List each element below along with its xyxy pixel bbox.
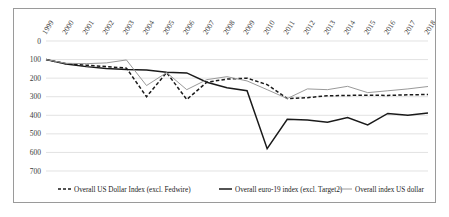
x-tick-label: 2009 xyxy=(241,18,257,36)
x-tick-label: 2017 xyxy=(402,18,418,36)
x-tick-label: 2018 xyxy=(422,18,435,36)
legend-label-0: Overall US Dollar Index (excl. Fedwire) xyxy=(74,186,191,194)
y-tick-label: 100 xyxy=(30,55,42,64)
legend-label-1: Overall euro-19 index (excl. Target2) xyxy=(235,186,343,194)
x-tick-label: 2002 xyxy=(100,18,116,36)
gridlines xyxy=(46,41,428,171)
series-line-0 xyxy=(46,60,428,100)
x-tick-label: 2016 xyxy=(382,18,398,36)
x-tick-label: 2011 xyxy=(281,19,297,36)
x-tick-label: 1999 xyxy=(40,18,56,36)
y-tick-label: 700 xyxy=(30,167,42,176)
x-tick-label: 2007 xyxy=(201,18,217,36)
y-tick-label: 200 xyxy=(30,74,42,83)
chart-legend: Overall US Dollar Index (excl. Fedwire)O… xyxy=(58,186,424,194)
series-lines xyxy=(46,60,428,149)
series-line-1 xyxy=(46,60,428,149)
x-tick-label: 2005 xyxy=(161,18,177,36)
x-tick-label: 2003 xyxy=(120,18,136,36)
legend-label-2: Overall index US dollar xyxy=(355,186,424,194)
y-tick-label: 600 xyxy=(30,148,42,157)
series-line-2 xyxy=(46,60,428,99)
x-tick-label: 2008 xyxy=(221,18,237,36)
y-tick-label: 400 xyxy=(30,111,42,120)
x-tick-label: 2004 xyxy=(141,18,157,36)
x-axis-tick-labels: 1999200020012002200320042005200620072008… xyxy=(40,18,435,36)
y-tick-label: 0 xyxy=(37,37,41,46)
x-tick-label: 2010 xyxy=(261,18,277,36)
x-tick-label: 2000 xyxy=(60,18,76,36)
x-tick-label: 2015 xyxy=(362,18,378,36)
y-tick-label: 500 xyxy=(30,129,42,138)
y-axis-tick-labels: 0100200300400500600700 xyxy=(30,37,42,176)
x-tick-label: 2013 xyxy=(322,18,338,36)
x-tick-label: 2006 xyxy=(181,18,197,36)
y-tick-label: 300 xyxy=(30,92,42,101)
chart-frame: 0100200300400500600700 19992000200120022… xyxy=(13,8,436,203)
x-tick-label: 2012 xyxy=(301,18,317,36)
x-tick-label: 2014 xyxy=(342,18,358,36)
line-chart: 0100200300400500600700 19992000200120022… xyxy=(14,9,435,202)
x-tick-label: 2001 xyxy=(80,18,96,36)
